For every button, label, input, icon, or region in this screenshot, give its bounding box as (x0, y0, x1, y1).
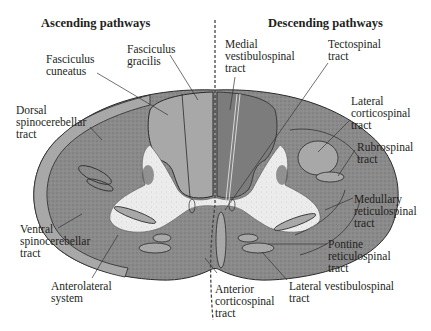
descending-heading: Descending pathways (268, 16, 383, 31)
label-fasciculus-gracilis: Fasciculus gracilis (127, 43, 176, 67)
label-anterolateral-system: Anterolateral system (51, 280, 112, 304)
label-lateral-corticospinal: Lateral corticospinal tract (351, 95, 410, 131)
label-tectospinal: Tectospinal tract (328, 38, 381, 62)
label-dorsal-spinocerebellar: Dorsal spinocerebellar tract (16, 104, 86, 140)
spinal-cord-diagram: Ascending pathways Descending pathways F… (0, 0, 431, 331)
ascending-heading: Ascending pathways (41, 16, 150, 31)
label-fasciculus-cuneatus: Fasciculus cuneatus (46, 53, 95, 77)
label-anterior-corticospinal: Anterior corticospinal tract (215, 283, 274, 319)
anterior-corticospinal-region (216, 212, 226, 268)
label-lateral-vestibulospinal: Lateral vestibulospinal tract (289, 280, 394, 304)
label-medullary-reticulospinal: Medullary reticulospinal tract (354, 193, 417, 229)
lateral-corticospinal-region (298, 141, 338, 175)
label-ventral-spinocerebellar: Ventral spinocerebellar tract (20, 223, 90, 259)
label-pontine-reticulospinal: Pontine reticulospinal tract (328, 238, 391, 274)
label-medial-vestibulospinal: Medial vestibulospinal tract (225, 38, 295, 74)
label-rubrospinal: Rubrospinal tract (357, 141, 413, 165)
